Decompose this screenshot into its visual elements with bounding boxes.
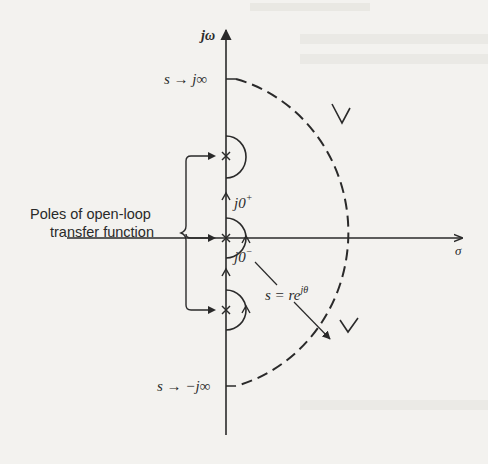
- leader-line-j0-minus: [255, 262, 277, 285]
- j0-minus-label: j0−: [232, 246, 252, 265]
- jw-axis-label: jω: [199, 28, 215, 43]
- poles-label-line2: transfer function: [50, 224, 154, 240]
- bracket-arrowhead-upper: [208, 152, 216, 160]
- large-semicircle-contour: [236, 79, 348, 386]
- poles-label-line1: Poles of open-loop: [30, 206, 151, 222]
- arc-direction-arrow-upper: [332, 104, 350, 123]
- poles-bracket: [181, 156, 214, 310]
- j0-plus-label: j0+: [232, 192, 252, 211]
- s-to-minus-j-infinity-label: s → −j∞: [157, 378, 211, 394]
- bracket-arrowhead-lower: [208, 306, 216, 314]
- small-arc-equation-label: s = rejθ: [265, 284, 308, 303]
- arc-direction-arrow-lower: [340, 318, 358, 332]
- sigma-axis-label: σ: [455, 243, 462, 258]
- leader-line-large-arc: [294, 302, 330, 339]
- s-to-j-infinity-label: s → j∞: [164, 71, 208, 87]
- background-bleed-text: [250, 3, 488, 410]
- bracket-arrowhead-origin: [208, 234, 216, 242]
- nyquist-contour-diagram: jω σ s → j∞ s → −j∞ j0+ j0− s = rejθ Pol…: [0, 0, 488, 464]
- indent-arc-upper-pole: [226, 136, 246, 178]
